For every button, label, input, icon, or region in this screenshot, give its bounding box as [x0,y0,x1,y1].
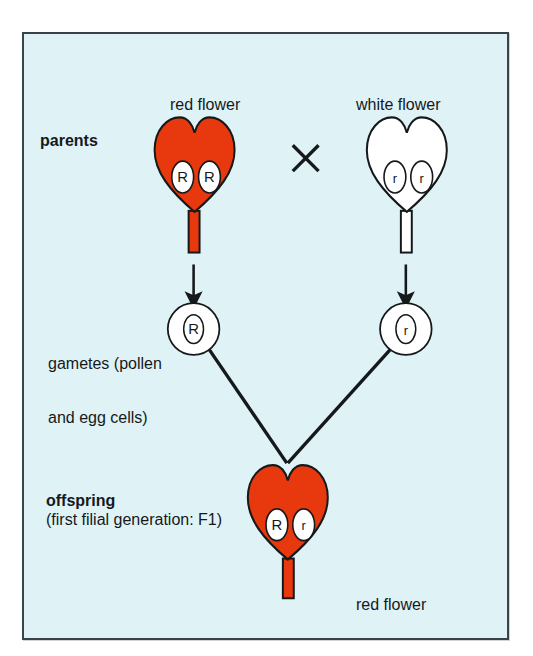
gamete-r-dominant: R [168,303,220,355]
row-label-offspring: offspring [46,492,115,510]
parent-white-flower: r r [367,117,447,252]
row-label-offspring-sub: (first filial generation: F1) [46,511,222,529]
parent-white-stem [401,211,412,253]
offspring-allele-1: R [266,509,288,541]
offspring-stem [283,559,294,599]
parent-white-allele-2-letter: r [420,171,425,186]
parent-red-allele-1-letter: R [177,169,188,185]
gamete-r-recessive: r [380,303,432,355]
figure-frame: R R r r [22,32,509,640]
parent-white-allele-1-letter: r [393,171,398,186]
row-label-gametes-line1: gametes (pollen [48,355,162,373]
connector-left-to-offspring [209,350,286,463]
row-label-gametes-line2: and egg cells) [48,409,162,427]
gamete-r-recessive-letter: r [404,323,409,338]
row-label-gametes: gametes (pollen and egg cells) [48,319,162,462]
offspring-allele-2: r [293,509,315,541]
row-label-parents: parents [40,132,98,150]
offspring-allele-1-letter: R [272,517,283,533]
connector-right-to-offspring [288,350,390,463]
cross-symbol-icon [293,145,319,171]
gamete-r-dominant-letter: R [188,321,199,337]
parent-white-allele-1: r [384,161,406,193]
parent-red-stem [189,211,200,253]
parent-red-flower: R R [155,117,235,252]
parent-red-allele-1: R [172,161,194,193]
offspring-flower-caption: red flower [356,596,426,614]
parent-white-allele-2: r [411,161,433,193]
parent-white-flower-caption: white flower [356,96,440,114]
offspring-red-flower: R r [248,465,328,598]
offspring-allele-2-letter: r [302,518,307,533]
parent-red-allele-2-letter: R [204,169,215,185]
parent-red-allele-2: R [199,161,221,193]
parent-red-flower-caption: red flower [170,96,240,114]
